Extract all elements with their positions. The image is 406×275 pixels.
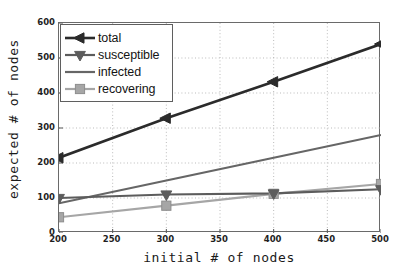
legend-item-recovering: recovering (64, 80, 168, 97)
marker-triangle-left (267, 77, 278, 87)
legend-item-infected: infected (64, 63, 168, 80)
legend-marker-triangle-left (74, 32, 85, 42)
chart-figure: expected # of nodes 0100200300400500600 … (0, 0, 406, 275)
y-tick-label: 600 (25, 17, 55, 27)
x-tick-label: 250 (92, 234, 132, 244)
legend-swatch-infected (64, 64, 96, 80)
marker-triangle-left (59, 153, 63, 163)
x-axis-label: initial # of nodes (58, 250, 380, 265)
series-line-recovering (59, 184, 381, 217)
legend-marker-triangle-down (75, 51, 86, 61)
x-tick-label: 300 (145, 234, 185, 244)
legend-marker-square (75, 84, 84, 93)
y-tick-label: 500 (25, 52, 55, 62)
y-tick-label: 300 (25, 122, 55, 132)
legend-swatch-recovering (64, 81, 96, 97)
legend-label: recovering (96, 82, 155, 96)
x-tick-label: 500 (360, 234, 400, 244)
legend-item-total: total (64, 29, 168, 46)
legend-label: total (96, 31, 121, 45)
y-axis-tick-labels: 0100200300400500600 (22, 22, 55, 232)
chart-legend: totalsusceptibleinfectedrecovering (60, 24, 173, 102)
legend-label: infected (96, 65, 141, 79)
marker-square (59, 213, 64, 222)
y-axis-label: expected # of nodes (2, 3, 24, 235)
y-tick-label: 100 (25, 192, 55, 202)
y-tick-label: 200 (25, 157, 55, 167)
marker-triangle-left (160, 113, 171, 123)
legend-label: susceptible (96, 48, 159, 62)
x-tick-label: 400 (253, 234, 293, 244)
y-tick-label: 400 (25, 87, 55, 97)
marker-triangle-left (375, 39, 382, 49)
x-axis-tick-labels: 200250300350400450500 (58, 234, 380, 248)
legend-item-susceptible: susceptible (64, 46, 168, 63)
marker-square (162, 201, 171, 210)
x-tick-label: 350 (199, 234, 239, 244)
x-tick-label: 200 (38, 234, 78, 244)
x-tick-label: 450 (306, 234, 346, 244)
legend-swatch-susceptible (64, 47, 96, 63)
legend-swatch-total (64, 30, 96, 46)
